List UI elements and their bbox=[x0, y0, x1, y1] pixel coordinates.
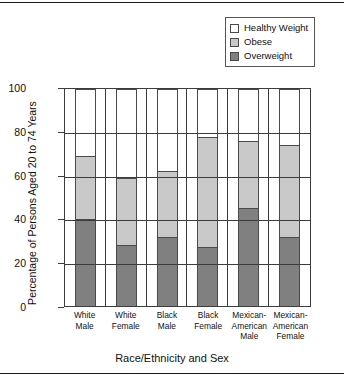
x-tick-label-line: American bbox=[270, 321, 311, 332]
legend-swatch-obese bbox=[230, 38, 239, 47]
x-axis-tick-labels: WhiteMaleWhiteFemaleBlackMaleBlackFemale… bbox=[64, 310, 311, 342]
bar-segment-overweight[interactable] bbox=[116, 245, 137, 306]
gridline-80 bbox=[65, 133, 310, 134]
y-tick-label-40: 40 bbox=[0, 213, 26, 225]
y-axis-title: Percentage of Persons Aged 20 to 74 Year… bbox=[26, 98, 38, 308]
bar-slot-mexican-american-male bbox=[228, 89, 269, 306]
gridline-40 bbox=[65, 220, 310, 221]
bar-slot-black-male bbox=[147, 89, 188, 306]
bar-segment-overweight[interactable] bbox=[75, 219, 96, 306]
chart-legend: Healthy Weight Obese Overweight bbox=[225, 17, 315, 67]
x-tick-label-line: Mexican- bbox=[229, 310, 270, 321]
bar-segment-overweight[interactable] bbox=[238, 208, 259, 306]
legend-item-overweight: Overweight bbox=[230, 49, 308, 63]
legend-label-healthy-weight: Healthy Weight bbox=[244, 21, 308, 35]
y-axis: Percentage of Persons Aged 20 to 74 Year… bbox=[0, 0, 64, 386]
x-tick-label-line: Black bbox=[146, 310, 187, 321]
stacked-bar[interactable] bbox=[116, 89, 137, 306]
x-axis-title: Race/Ethnicity and Sex bbox=[0, 352, 344, 364]
chart-figure: Healthy Weight Obese Overweight Percenta… bbox=[0, 0, 344, 386]
x-tick-label-line: Black bbox=[188, 310, 229, 321]
x-tick-label-line: Male bbox=[64, 321, 105, 332]
x-tick-label-line: White bbox=[105, 310, 146, 321]
bar-segment-healthy[interactable] bbox=[75, 89, 96, 156]
bar-slot-white-male bbox=[65, 89, 106, 306]
legend-label-obese: Obese bbox=[244, 35, 272, 49]
x-tick-label-line: Mexican- bbox=[270, 310, 311, 321]
bar-segment-obese[interactable] bbox=[197, 137, 218, 248]
bar-segment-healthy[interactable] bbox=[197, 89, 218, 137]
bar-segment-overweight[interactable] bbox=[157, 237, 178, 306]
stacked-bar[interactable] bbox=[279, 89, 300, 306]
legend-swatch-healthy-weight bbox=[230, 24, 239, 33]
x-tick-label-mexican-american-male: Mexican-AmericanMale bbox=[229, 310, 270, 342]
x-tick-label-white-male: WhiteMale bbox=[64, 310, 105, 342]
legend-label-overweight: Overweight bbox=[244, 49, 292, 63]
x-tick-label-black-male: BlackMale bbox=[146, 310, 187, 342]
bar-segment-healthy[interactable] bbox=[279, 89, 300, 145]
legend-item-obese: Obese bbox=[230, 35, 308, 49]
stacked-bar[interactable] bbox=[238, 89, 259, 306]
stacked-bar[interactable] bbox=[157, 89, 178, 306]
y-tick-label-100: 100 bbox=[0, 82, 26, 94]
bar-segment-obese[interactable] bbox=[116, 178, 137, 245]
x-tick-label-line: Female bbox=[188, 321, 229, 332]
legend-item-healthy-weight: Healthy Weight bbox=[230, 21, 308, 35]
bar-slot-white-female bbox=[106, 89, 147, 306]
stacked-bar[interactable] bbox=[75, 89, 96, 306]
gridline-60 bbox=[65, 177, 310, 178]
plot-area bbox=[64, 88, 311, 307]
y-tick-mark-0 bbox=[58, 307, 64, 308]
y-tick-label-60: 60 bbox=[0, 170, 26, 182]
x-tick-label-line: Female bbox=[105, 321, 146, 332]
bar-segment-overweight[interactable] bbox=[279, 237, 300, 306]
bar-segment-obese[interactable] bbox=[75, 156, 96, 219]
bar-segment-obese[interactable] bbox=[279, 145, 300, 236]
bar-segment-obese[interactable] bbox=[238, 141, 259, 208]
x-tick-label-white-female: WhiteFemale bbox=[105, 310, 146, 342]
x-tick-label-line: Male bbox=[229, 331, 270, 342]
x-tick-label-line: White bbox=[64, 310, 105, 321]
bar-segment-overweight[interactable] bbox=[197, 247, 218, 306]
bar-segment-obese[interactable] bbox=[157, 171, 178, 236]
legend-swatch-overweight bbox=[230, 52, 239, 61]
bar-group bbox=[65, 89, 310, 306]
bar-slot-mexican-american-female bbox=[269, 89, 310, 306]
x-tick-label-line: Female bbox=[270, 331, 311, 342]
bar-segment-healthy[interactable] bbox=[157, 89, 178, 171]
stacked-bar[interactable] bbox=[197, 89, 218, 306]
x-tick-label-black-female: BlackFemale bbox=[188, 310, 229, 342]
bar-slot-black-female bbox=[187, 89, 228, 306]
x-tick-label-line: American bbox=[229, 321, 270, 332]
gridline-20 bbox=[65, 264, 310, 265]
y-tick-label-20: 20 bbox=[0, 257, 26, 269]
x-tick-label-mexican-american-female: Mexican-AmericanFemale bbox=[270, 310, 311, 342]
y-tick-label-0: 0 bbox=[0, 301, 26, 313]
y-tick-label-80: 80 bbox=[0, 126, 26, 138]
x-tick-label-line: Male bbox=[146, 321, 187, 332]
